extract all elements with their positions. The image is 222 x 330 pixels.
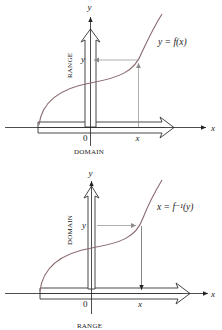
x-axis-label: x <box>210 123 215 133</box>
origin-label: 0 <box>83 133 88 143</box>
function-inverse-diagram: x y 0 x y y = f(x) DOMAIN RANGE x y 0 x … <box>0 0 222 330</box>
domain-label: DOMAIN <box>74 148 104 156</box>
point-x-label: x <box>135 133 140 143</box>
curve-label-f: y = f(x) <box>157 37 187 48</box>
y-axis-label: y <box>87 2 92 12</box>
y-axis-label-inverse: y <box>88 168 93 178</box>
function-curve <box>39 14 162 125</box>
point-y-label-inverse: y <box>81 220 86 230</box>
diagram-inverse: x y 0 x y x = f⁻¹(y) RANGE DOMAIN <box>5 168 215 330</box>
curve-label-f-inverse: x = f⁻¹(y) <box>156 202 193 213</box>
point-y-label: y <box>80 54 85 64</box>
domain-label-inverse: DOMAIN <box>66 215 74 245</box>
range-label: RANGE <box>66 53 74 78</box>
origin-label-inverse: 0 <box>83 299 88 309</box>
inverse-curve <box>40 180 162 291</box>
point-x-label-inverse: x <box>137 299 142 309</box>
x-axis-label-inverse: x <box>210 289 215 299</box>
diagram-function: x y 0 x y y = f(x) DOMAIN RANGE <box>5 2 215 156</box>
range-label-inverse: RANGE <box>77 322 102 330</box>
